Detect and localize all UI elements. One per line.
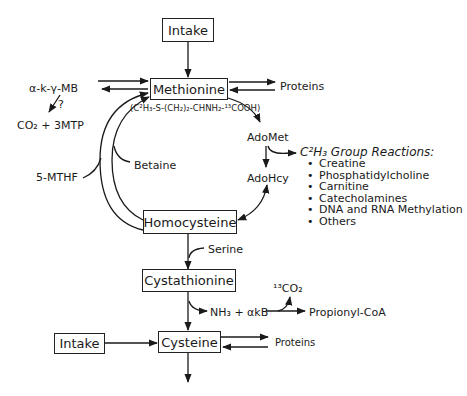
methionine-box: Methionine xyxy=(150,78,228,100)
list-item: Creatine xyxy=(307,158,463,170)
list-item: Others xyxy=(307,216,463,228)
nh3-akb-label: NH₃ + αkB xyxy=(210,307,268,318)
cysteine-box: Cysteine xyxy=(158,331,221,353)
adomet-label: AdoMet xyxy=(247,132,289,143)
serine-label: Serine xyxy=(208,244,243,255)
group-reactions-list: Creatine Phosphatidylcholine Carnitine C… xyxy=(307,158,463,228)
akmb-label: α-k-γ-MB xyxy=(29,83,78,94)
proteins-top-label: Proteins xyxy=(280,81,324,92)
mthf-label: 5-MTHF xyxy=(36,172,78,183)
intake-bottom-box: Intake xyxy=(54,333,105,354)
question-mark: ? xyxy=(58,99,64,110)
intake-top-box: Intake xyxy=(162,18,214,42)
proteins-bottom-label: Proteins xyxy=(275,338,315,348)
homocysteine-box: Homocysteine xyxy=(143,210,237,234)
co2-13-label: ¹³CO₂ xyxy=(273,283,303,294)
cystathionine-box: Cystathionine xyxy=(142,269,236,292)
co2-3mtp-label: CO₂ + 3MTP xyxy=(17,120,84,131)
adohcy-label: AdoHcy xyxy=(247,173,289,184)
betaine-label: Betaine xyxy=(134,160,176,171)
propionyl-coa-label: Propionyl-CoA xyxy=(309,307,386,318)
methionine-formula: (C²H₃-S-(CH₂)₂-CHNH₂-¹³COOH) xyxy=(130,104,260,113)
